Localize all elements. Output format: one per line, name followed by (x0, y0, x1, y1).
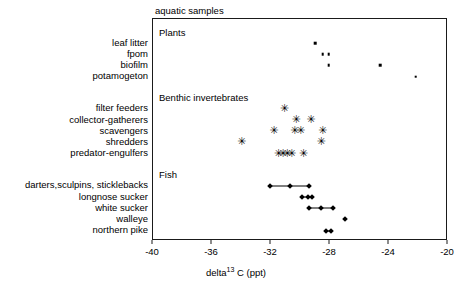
data-point: ✳ (269, 125, 278, 136)
data-point: ✳ (299, 148, 308, 159)
x-axis-title-prefix: delta (206, 267, 227, 278)
x-axis-title-suffix: C (ppt) (234, 267, 266, 278)
category-label-text: predator-engulfers (70, 147, 148, 158)
data-point: ✳ (280, 103, 289, 114)
x-axis-tick-label: -28 (322, 246, 336, 257)
group-heading-benthic-invertebrates: Benthic invertebrates (159, 92, 248, 103)
x-axis-title: delta13 C (ppt) (0, 264, 472, 278)
data-point (327, 53, 330, 56)
category-label-text: filter feeders (96, 102, 148, 113)
x-axis-tick (211, 240, 212, 244)
category-label: northern pike (93, 224, 148, 235)
category-label: predator-engulfers (70, 147, 148, 158)
data-point (299, 194, 305, 200)
category-label-text: northern pike (93, 224, 148, 235)
category-label-text: walleye (116, 213, 148, 224)
chart-title: aquatic samples (155, 5, 224, 16)
x-axis-tick (388, 240, 389, 244)
category-label: biofilm (121, 59, 148, 70)
category-label-text: white sucker (95, 202, 148, 213)
plot-area: PlantsBenthic invertebrates✳✳✳✳✳✳✳✳✳✳✳✳✳… (152, 18, 447, 240)
category-label: longnose sucker (79, 191, 148, 202)
category-label: shredders (106, 136, 148, 147)
x-axis-tick (447, 240, 448, 244)
data-point (318, 205, 324, 211)
x-axis-tick (270, 240, 271, 244)
data-point: ✳ (287, 148, 296, 159)
category-label: walleye (116, 213, 148, 224)
data-point: ✳ (296, 125, 305, 136)
category-label-text: shredders (106, 136, 148, 147)
category-label: fpom (127, 48, 148, 59)
category-label-text: scavengers (99, 125, 148, 136)
group-heading-fish: Fish (159, 169, 177, 180)
x-axis-tick-label: -36 (204, 246, 218, 257)
x-axis-tick-label: -24 (381, 246, 395, 257)
data-point (267, 183, 273, 189)
category-label: leaf litter (112, 37, 148, 48)
data-point (314, 42, 317, 45)
data-point (307, 183, 313, 189)
data-point: ✳ (237, 136, 246, 147)
category-label: collector-gatherers (69, 114, 148, 125)
category-label: potamogeton (93, 70, 148, 81)
group-heading-plants: Plants (159, 27, 185, 38)
data-point (327, 64, 330, 67)
scatter-chart-figure: aquatic samples PlantsBenthic invertebra… (0, 0, 472, 289)
category-label-text: biofilm (121, 59, 148, 70)
category-label-text: fpom (127, 48, 148, 59)
data-point (309, 194, 315, 200)
category-label-text: longnose sucker (79, 191, 148, 202)
data-point (414, 75, 417, 78)
data-point (330, 205, 336, 211)
category-label: darters,sculpins, sticklebacks (25, 179, 148, 190)
x-axis-tick (152, 240, 153, 244)
x-axis-tick-label: -20 (440, 246, 454, 257)
data-point (329, 228, 335, 234)
data-point (287, 183, 293, 189)
data-point (321, 53, 324, 56)
data-point (379, 64, 382, 67)
category-label-text: darters,sculpins, sticklebacks (25, 179, 148, 190)
x-axis-tick-label: -40 (145, 246, 159, 257)
category-label: white sucker (95, 202, 148, 213)
data-point: ✳ (317, 136, 326, 147)
data-point: ✳ (306, 114, 315, 125)
category-label: filter feeders (96, 102, 148, 113)
x-axis-tick-label: -32 (263, 246, 277, 257)
x-axis-tick (329, 240, 330, 244)
category-label: scavengers (99, 125, 148, 136)
data-point (307, 205, 313, 211)
data-point (342, 217, 348, 223)
category-label-text: collector-gatherers (69, 114, 148, 125)
category-label-text: leaf litter (112, 37, 148, 48)
category-label-text: potamogeton (93, 70, 148, 81)
